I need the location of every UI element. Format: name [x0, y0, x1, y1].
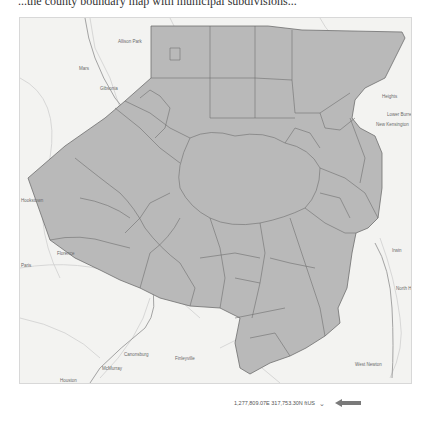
map-view[interactable]: Allison ParkMarsGibsoniaLower BurrellNew… — [19, 17, 412, 384]
place-label: West Newton — [355, 362, 382, 367]
caption-text: ...the county boundary map with municipa… — [18, 0, 297, 9]
place-label: McMurray — [102, 366, 122, 371]
place-label: Irwin — [392, 248, 402, 253]
place-label: Gibsonia — [100, 86, 118, 91]
status-bar: 1,277,809.07E 317,753.30N ftUS ⌄ — [234, 397, 361, 409]
place-label: Florence — [57, 251, 75, 256]
arrow-left-icon — [335, 399, 361, 407]
map-canvas[interactable] — [20, 18, 411, 383]
place-label: Heights — [382, 94, 397, 99]
place-label: Houston — [60, 378, 77, 383]
place-label: Allison Park — [118, 39, 142, 44]
place-label: Mars — [79, 66, 89, 71]
cursor-coordinates: 1,277,809.07E 317,753.30N ftUS — [234, 400, 315, 406]
place-label: North Huntingdon — [396, 286, 412, 291]
place-label: Canonsburg — [124, 352, 149, 357]
place-label: Hookstown — [21, 198, 43, 203]
place-label: Paris — [21, 263, 31, 268]
place-label: New Kensington — [376, 122, 409, 127]
chevron-down-icon[interactable]: ⌄ — [319, 400, 325, 407]
place-label: Finleyville — [175, 356, 195, 361]
place-label: Lower Burrell — [387, 112, 412, 117]
